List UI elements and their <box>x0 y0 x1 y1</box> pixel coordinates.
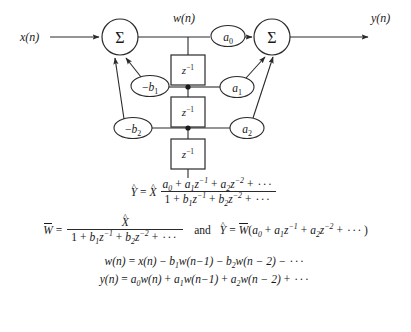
w-denominator: 1+b1z−1+b2z−2+··· <box>67 229 183 243</box>
y-hat-symbol-2: ^Y <box>220 224 226 236</box>
b2-term: b2w(n − 2) <box>226 255 276 267</box>
w-bar-symbol-2: W <box>239 224 249 236</box>
w-of-n: w(n) <box>105 255 126 267</box>
equals-sign: = <box>137 186 150 198</box>
gain-b2[interactable]: −b2 <box>114 118 152 139</box>
b1-term: b1w(n−1) <box>169 255 213 267</box>
delay-block-3[interactable]: z−1 <box>171 139 205 169</box>
a2-term: a2w(n − 2) <box>231 273 281 285</box>
transfer-fraction: a0+a1z−1+a2z−2+··· 1+b1z−1+b2z−2+··· <box>159 178 279 205</box>
transfer-denominator: 1+b1z−1+b2z−2+··· <box>161 191 277 205</box>
w-numerator: ^X <box>118 216 133 229</box>
conjunction-and: and <box>185 224 220 236</box>
equals-sign-2: = <box>53 224 66 236</box>
summing-junction-left[interactable]: Σ <box>102 19 138 55</box>
wire-a1-to-sum <box>246 57 265 78</box>
wire-b1-to-sum <box>126 58 141 77</box>
delay-block-2[interactable]: z−1 <box>171 97 205 127</box>
block-diagram: Σ Σ z−1 z−1 z−1 a0 a1 <box>0 0 411 180</box>
transfer-numerator: a0+a1z−1+a2z−2+··· <box>159 178 279 191</box>
a1-term: a1w(n−1) <box>174 273 218 285</box>
delay-block-1[interactable]: z−1 <box>171 55 205 85</box>
x-of-n: x(n) <box>138 255 157 267</box>
summing-junction-right-label: Σ <box>267 29 276 46</box>
y-hat-symbol: ^Y <box>131 186 137 198</box>
wire-b2-to-sum <box>115 58 124 119</box>
w-fraction: ^X 1+b1z−1+b2z−2+··· <box>67 216 183 243</box>
intermediate-signal-label: w(n) <box>173 11 195 25</box>
summing-junction-right[interactable]: Σ <box>254 19 290 55</box>
equals-sign-3: = <box>226 224 239 236</box>
tap-point-2 <box>185 125 190 130</box>
x-hat-symbol: ^X <box>150 186 157 198</box>
signal-wires <box>50 37 368 178</box>
summing-junction-left-label: Σ <box>115 29 124 46</box>
figure-container: Σ Σ z−1 z−1 z−1 a0 a1 <box>0 0 411 332</box>
equations-block: ^Y = ^X a0+a1z−1+a2z−2+··· 1+b1z−1+b2z−2… <box>0 176 411 285</box>
equation-transfer-function: ^Y = ^X a0+a1z−1+a2z−2+··· 1+b1z−1+b2z−2… <box>0 178 411 205</box>
caption-cut-off <box>8 325 403 332</box>
output-signal-label: y(n) <box>370 11 390 25</box>
y-of-n: y(n) <box>100 273 119 285</box>
input-signal-label: x(n) <box>19 30 39 44</box>
a0-term: a0w(n) <box>131 273 162 285</box>
gain-a1[interactable]: a1 <box>220 77 254 98</box>
equation-w-transform: W = ^X 1+b1z−1+b2z−2+··· and ^Y = W (a0+… <box>0 216 411 243</box>
gain-a0[interactable]: a0 <box>211 26 245 47</box>
equation-w-difference: w(n) = x(n) − b1w(n−1) − b2w(n − 2) − ··… <box>0 255 411 267</box>
gain-b1[interactable]: −b1 <box>131 76 169 97</box>
w-bar-symbol: W <box>43 224 53 236</box>
gain-a2[interactable]: a2 <box>230 118 264 139</box>
equation-y-difference: y(n) = a0w(n) + a1w(n−1) + a2w(n − 2) + … <box>0 273 411 285</box>
tap-point-1 <box>185 84 190 89</box>
w-expansion: (a0+a1z−1+a2z−2+···) <box>248 224 368 236</box>
